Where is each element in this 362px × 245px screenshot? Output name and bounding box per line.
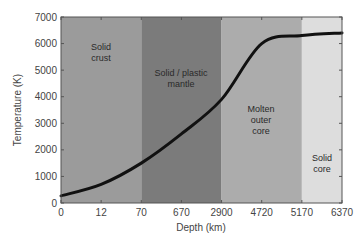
y-tick-label: 2000 [35,144,58,155]
x-tick-label: 5170 [291,207,314,218]
x-tick-label: 4720 [251,207,274,218]
region-label: Solid [312,153,332,163]
region-label: core [252,126,270,136]
region-label: Molten [247,104,274,114]
region-solid-core [302,17,342,203]
region-label: Solid / plastic [154,68,208,78]
region-label: crust [91,53,111,63]
x-tick-label: 12 [96,207,108,218]
y-tick-label: 0 [51,198,57,209]
x-tick-label: 0 [58,207,64,218]
x-axis-label: Depth (km) [176,222,225,233]
x-tick-label: 670 [173,207,190,218]
y-tick-label: 6000 [35,38,58,49]
x-tick-label: 6370 [331,207,354,218]
x-tick-label: 2900 [210,207,233,218]
region-label: outer [251,115,272,125]
y-tick-label: 4000 [35,91,58,102]
region-label: mantle [167,79,194,89]
x-tick-label: 70 [136,207,148,218]
y-tick-label: 3000 [35,118,58,129]
temperature-depth-chart: SolidcrustSolid / plasticmantleMoltenout… [0,0,362,245]
y-tick-label: 1000 [35,171,58,182]
region-label: Solid [91,42,111,52]
region-label: core [313,164,331,174]
y-tick-label: 7000 [35,12,58,23]
y-axis-label: Temperature (K) [12,74,23,146]
y-tick-label: 5000 [35,65,58,76]
